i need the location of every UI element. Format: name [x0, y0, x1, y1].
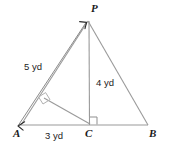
vertex-label-A: A: [13, 128, 20, 139]
measure-label-side-AP: 5 yd: [24, 62, 42, 72]
vertex-label-P: P: [91, 3, 98, 14]
segment-AP: [21, 21, 88, 125]
dimension-line-5yd: [18, 23, 86, 126]
right-angle-at-C-mark: [90, 117, 97, 124]
vertex-label-C: C: [85, 128, 92, 139]
measure-label-base-AC: 3 yd: [45, 131, 63, 141]
measure-label-altitude-CP: 4 yd: [96, 78, 114, 88]
vertex-label-B: B: [149, 128, 156, 139]
segment-C-to-AP-altitude: [44, 98, 90, 124]
geometry-canvas: [0, 0, 169, 147]
segment-PB: [88, 21, 148, 125]
segment-CP-altitude: [89, 21, 90, 125]
geometry-diagram: A C B P 5 yd 4 yd 3 yd: [0, 0, 169, 147]
